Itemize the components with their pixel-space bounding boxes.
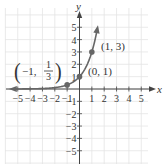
paren-close: ) <box>55 59 62 85</box>
y-tick-label: 5 <box>72 22 77 33</box>
data-point <box>77 74 83 80</box>
point-labels: ( −1, 1 3 ) (0, 1) (1, 3) <box>14 40 125 85</box>
exponential-graph: x y −5−4−3−2−112345−5−4−3−2−112345 ( −1,… <box>0 0 165 167</box>
axes: x y <box>6 0 162 164</box>
x-tick-label: −2 <box>49 93 60 104</box>
x-tick-label: −3 <box>37 93 48 104</box>
curve-left-arrow-icon <box>9 86 17 92</box>
y-tick-label: −2 <box>66 109 77 120</box>
label-point-neg1: ( −1, 1 3 ) <box>14 59 62 85</box>
data-point <box>64 82 70 88</box>
x-tick-label: 5 <box>139 93 144 104</box>
y-axis-label: y <box>75 0 81 12</box>
x-axis-label: x <box>156 83 162 95</box>
y-tick-label: −3 <box>66 121 77 132</box>
x-tick-label: 1 <box>89 93 94 104</box>
y-tick-label: 4 <box>72 35 77 46</box>
x-tick-label: 4 <box>126 93 131 104</box>
x-tick-label: 2 <box>102 93 107 104</box>
y-tick-label: −5 <box>66 146 77 157</box>
x-tick-label: −5 <box>12 93 23 104</box>
x-tick-label: 3 <box>114 93 119 104</box>
y-tick-label: −4 <box>66 133 77 144</box>
label-point-1-3: (1, 3) <box>101 40 125 53</box>
grid <box>5 8 148 164</box>
paren-open: ( <box>14 59 21 85</box>
y-tick-label: 2 <box>72 59 77 70</box>
data-point <box>89 49 95 55</box>
label-frac-den: 3 <box>46 71 51 82</box>
y-tick-label: −1 <box>66 96 77 107</box>
label-frac-num: 1 <box>46 59 51 70</box>
y-tick-label: 3 <box>72 47 77 58</box>
curve-up-arrow-icon <box>93 25 99 33</box>
x-axis-arrow-icon <box>149 86 156 91</box>
label-neg1-x: −1, <box>22 65 37 77</box>
label-point-0-1: (0, 1) <box>88 65 112 78</box>
x-tick-label: −4 <box>25 93 36 104</box>
